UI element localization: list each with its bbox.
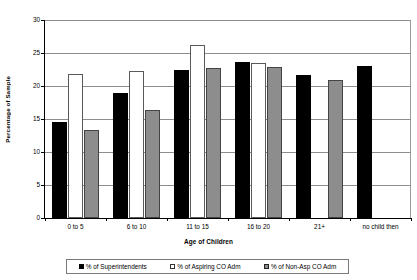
x-axis-tick-mark	[167, 218, 168, 221]
x-axis-tick-mark	[350, 218, 351, 221]
y-axis-tick-label: 30	[14, 17, 40, 23]
y-axis-title: Percentage of Sample	[0, 0, 14, 218]
legend-item-label: % of Non-Asp CO Adm	[271, 263, 336, 270]
y-axis-tick-label: 20	[14, 83, 40, 89]
y-axis-tick-mark	[41, 119, 44, 120]
bar	[235, 62, 250, 218]
x-axis-title: Age of Children	[0, 238, 417, 245]
bar	[52, 122, 67, 218]
bar	[145, 110, 160, 218]
y-axis-tick-mark	[41, 86, 44, 87]
legend-item[interactable]: % of Non-Asp CO Adm	[264, 263, 336, 270]
bar-group	[174, 20, 221, 218]
bar-group	[296, 20, 343, 218]
chart-legend: % of Superintendents% of Aspiring CO Adm…	[66, 259, 349, 274]
x-axis-tick-mark	[289, 218, 290, 221]
y-axis-tick-label: 10	[14, 149, 40, 155]
bar	[328, 80, 343, 218]
y-axis-tick-mark	[41, 218, 44, 219]
x-axis-tick-mark	[411, 218, 412, 221]
x-axis-category-label: 6 to 10	[127, 223, 147, 230]
bar	[357, 66, 372, 218]
y-axis-tick-label: 5	[14, 182, 40, 188]
bar-group	[235, 20, 282, 218]
bar	[129, 71, 144, 218]
bar	[296, 75, 311, 218]
bar-group	[113, 20, 160, 218]
legend-swatch-icon	[79, 264, 84, 269]
legend-item-label: % of Aspiring CO Adm	[177, 263, 240, 270]
legend-swatch-icon	[170, 264, 175, 269]
bar-group	[357, 20, 404, 218]
x-axis-category-label: 21+	[314, 223, 325, 230]
y-axis-tick-mark	[41, 185, 44, 186]
x-axis-category-label: 16 to 20	[247, 223, 270, 230]
y-axis-tick-label: 15	[14, 116, 40, 122]
legend-item[interactable]: % of Superintendents	[79, 263, 147, 270]
bar	[267, 67, 282, 218]
y-axis-tick-label: 0	[14, 215, 40, 221]
x-axis-category-label: no child then	[362, 223, 398, 230]
legend-swatch-icon	[264, 264, 269, 269]
x-axis-tick-mark	[228, 218, 229, 221]
bar-chart: Percentage of Sample 051015202530 0 to 5…	[0, 0, 417, 280]
y-axis-tick-mark	[41, 152, 44, 153]
bar-group	[52, 20, 99, 218]
x-axis-category-label: 0 to 5	[68, 223, 84, 230]
bar	[174, 70, 189, 218]
bar	[113, 93, 128, 218]
bar	[190, 45, 205, 218]
legend-item-label: % of Superintendents	[86, 263, 147, 270]
bar	[68, 74, 83, 218]
x-axis-category-label: 11 to 15	[186, 223, 209, 230]
y-axis-tick-label: 25	[14, 50, 40, 56]
y-axis-title-text: Percentage of Sample	[4, 76, 11, 143]
x-axis-tick-mark	[45, 218, 46, 221]
bar	[84, 130, 99, 218]
x-axis-tick-mark	[106, 218, 107, 221]
legend-item[interactable]: % of Aspiring CO Adm	[170, 263, 240, 270]
bar	[206, 68, 221, 218]
y-axis-tick-mark	[41, 53, 44, 54]
y-axis-tick-mark	[41, 20, 44, 21]
bar	[251, 63, 266, 218]
bars-layer	[45, 20, 410, 218]
